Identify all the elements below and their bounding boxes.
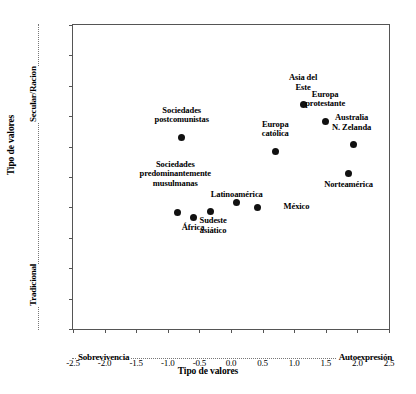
data-point[interactable] [233,199,240,206]
data-point[interactable] [272,148,279,155]
data-point-label: México [284,202,310,212]
x-axis-tick-label: 0.0 [214,359,248,368]
x-axis-tick [231,329,232,333]
x-axis-tick-label: -1.5 [119,359,153,368]
y-axis-pole-low-label: Tradicional [27,264,39,306]
x-axis-tick-label: 2.0 [340,359,374,368]
plot-area: 2.52.01.51.00.5-0.0-0.5-1.0-1.5-2.0-2.5-… [72,24,390,330]
x-axis-tick [199,329,200,333]
y-axis-tick [69,299,73,300]
x-axis-tick [73,329,74,333]
y-axis-tick [69,207,73,208]
x-axis-tick [136,329,137,333]
x-axis-tick [389,329,390,333]
x-axis-tick-label: -2.5 [56,359,90,368]
data-point[interactable] [178,134,185,141]
data-point-label: Europa protestante [265,90,385,109]
x-axis-tick [105,329,106,333]
y-axis-tick [69,86,73,87]
data-point-label: Australia N. Zelanda [292,113,412,132]
x-axis-tick [294,329,295,333]
y-axis-tick [69,147,73,148]
x-axis-tick-label: 0.5 [246,359,280,368]
x-axis-tick-label: 1.0 [277,359,311,368]
y-axis-tick [69,55,73,56]
data-point-label: Sudeste asiático [153,216,273,235]
y-axis-pole-high-label: Secular/Racion [27,66,39,122]
x-axis-tick-label: -0.5 [182,359,216,368]
y-axis-tick [69,268,73,269]
x-axis-tick-label: -2.0 [88,359,122,368]
x-axis-tick [263,329,264,333]
x-axis-tick-label: 2.5 [372,359,406,368]
x-axis-tick [168,329,169,333]
scatter-chart-figure: Tipo de valores Secular/Racion Tradicion… [0,0,416,394]
data-point-label: Norteamérica [289,180,409,190]
y-axis-tick [69,238,73,239]
x-axis-tick-label: 1.5 [309,359,343,368]
data-point-label: Sociedades predominantemente musulmanas [115,160,235,189]
data-point[interactable] [350,141,357,148]
data-point[interactable] [254,204,261,211]
x-axis-tick [357,329,358,333]
data-point[interactable] [207,208,214,215]
y-axis-tick [69,25,73,26]
data-point[interactable] [345,170,352,177]
y-axis-tick [69,177,73,178]
y-axis-title: Tipo de valores [6,115,16,175]
x-axis-tick [326,329,327,333]
y-axis-tick [69,116,73,117]
x-axis-tick-label: -1.0 [151,359,185,368]
data-point-label: Latinoamérica [177,190,297,200]
